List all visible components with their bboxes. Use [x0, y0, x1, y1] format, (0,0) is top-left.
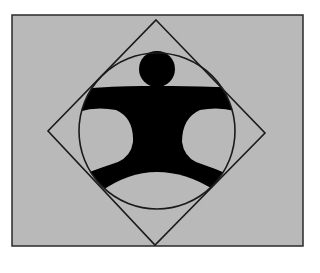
head [139, 51, 175, 87]
diagram-figure [0, 0, 320, 273]
